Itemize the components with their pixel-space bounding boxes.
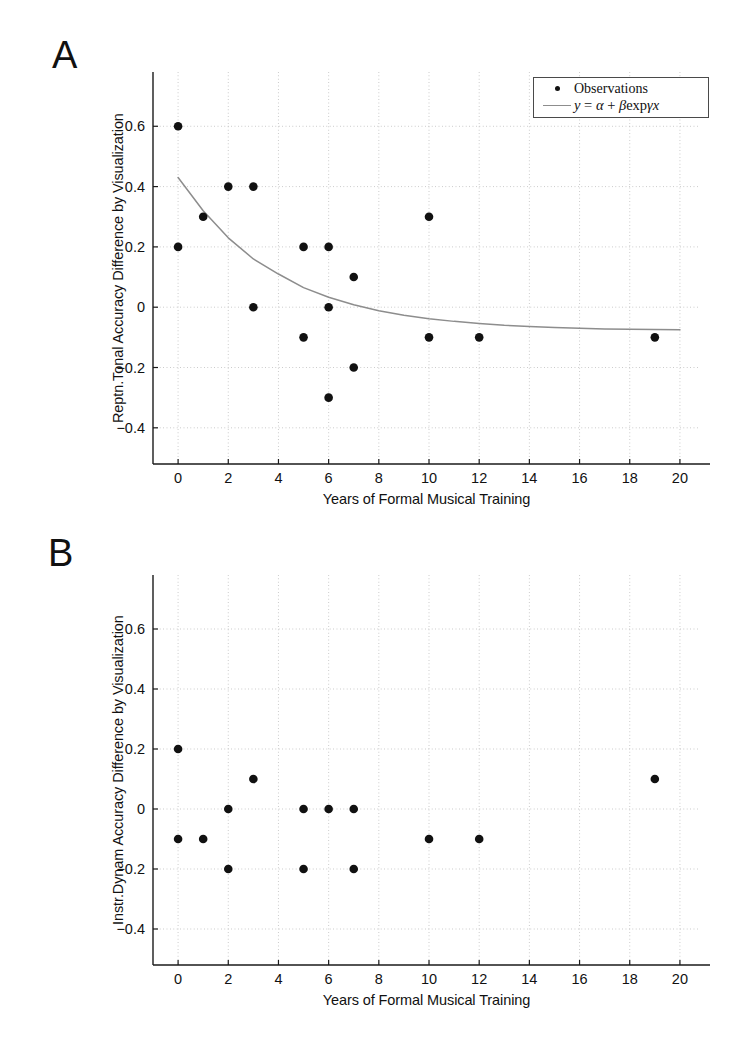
data-point [174, 243, 183, 252]
x-tick-label: 12 [471, 971, 487, 987]
x-tick-label: 14 [521, 971, 537, 987]
eq-alpha: α [596, 97, 604, 113]
y-tick-label: 0.2 [125, 741, 145, 757]
x-tick-label: 16 [571, 470, 587, 486]
x-tick-label: 4 [274, 470, 282, 486]
data-point [349, 805, 358, 814]
x-tick-label: 14 [521, 470, 537, 486]
y-tick-label: −0.2 [116, 360, 145, 376]
x-tick-label: 6 [325, 470, 333, 486]
x-tick-label: 2 [224, 470, 232, 486]
data-point [174, 745, 183, 754]
data-point [224, 182, 233, 191]
data-point [324, 243, 333, 252]
data-point [199, 835, 208, 844]
data-point [651, 333, 660, 342]
data-point [651, 775, 660, 784]
data-point [475, 835, 484, 844]
y-tick-label: 0 [137, 299, 145, 315]
data-point [425, 333, 434, 342]
data-point [199, 212, 208, 221]
y-tick-label: 0.4 [125, 681, 145, 697]
data-point [299, 805, 308, 814]
data-point [324, 393, 333, 402]
x-tick-label: 12 [471, 470, 487, 486]
eq-x: x [653, 97, 659, 113]
panel-b-plot: 02468101214161820−0.4−0.200.20.40.6 [0, 521, 734, 1043]
x-tick-label: 18 [622, 971, 638, 987]
y-tick-label: 0.2 [125, 239, 145, 255]
legend-line-icon [540, 105, 574, 106]
data-point [299, 243, 308, 252]
eq-equals: = [580, 97, 595, 113]
x-tick-label: 8 [375, 470, 383, 486]
data-point [224, 865, 233, 874]
x-tick-label: 0 [174, 470, 182, 486]
x-tick-label: 20 [672, 470, 688, 486]
y-tick-label: 0 [137, 801, 145, 817]
data-point [174, 835, 183, 844]
figure-container: A Reptn.Tonal Accuracy Difference by Vis… [0, 0, 734, 1043]
data-point [249, 775, 258, 784]
eq-exp: exp [626, 97, 647, 113]
data-point [324, 805, 333, 814]
x-tick-label: 4 [274, 971, 282, 987]
legend-label-observations: Observations [574, 82, 648, 96]
x-tick-label: 2 [224, 971, 232, 987]
data-point [249, 303, 258, 312]
data-point [299, 865, 308, 874]
x-tick-label: 6 [325, 971, 333, 987]
y-tick-label: −0.2 [116, 861, 145, 877]
data-point [349, 363, 358, 372]
x-tick-label: 10 [421, 470, 437, 486]
x-tick-label: 20 [672, 971, 688, 987]
panel-a-legend: Observations y = α + βexpγx [533, 77, 709, 118]
panel-a: A Reptn.Tonal Accuracy Difference by Vis… [0, 0, 734, 522]
y-tick-label: 0.6 [125, 118, 145, 134]
data-point [249, 182, 258, 191]
y-tick-label: 0.6 [125, 621, 145, 637]
legend-entry-fit: y = α + βexpγx [540, 97, 701, 114]
legend-entry-observations: Observations [540, 80, 701, 97]
data-point [324, 303, 333, 312]
x-tick-label: 18 [622, 470, 638, 486]
legend-marker-icon [540, 86, 574, 91]
x-tick-label: 16 [571, 971, 587, 987]
legend-label-fit: y = α + βexpγx [574, 98, 659, 113]
x-tick-label: 8 [375, 971, 383, 987]
data-point [475, 333, 484, 342]
y-tick-label: −0.4 [116, 420, 145, 436]
data-point [425, 835, 434, 844]
panel-b: B Instr.Dynam Accuracy Difference by Vis… [0, 521, 734, 1043]
data-point [299, 333, 308, 342]
y-tick-label: −0.4 [116, 921, 145, 937]
y-tick-label: 0.4 [125, 179, 145, 195]
data-point [349, 273, 358, 282]
data-point [174, 122, 183, 131]
eq-plus: + [604, 97, 619, 113]
data-point [425, 212, 434, 221]
x-tick-label: 10 [421, 971, 437, 987]
data-point [224, 805, 233, 814]
data-point [349, 865, 358, 874]
x-tick-label: 0 [174, 971, 182, 987]
